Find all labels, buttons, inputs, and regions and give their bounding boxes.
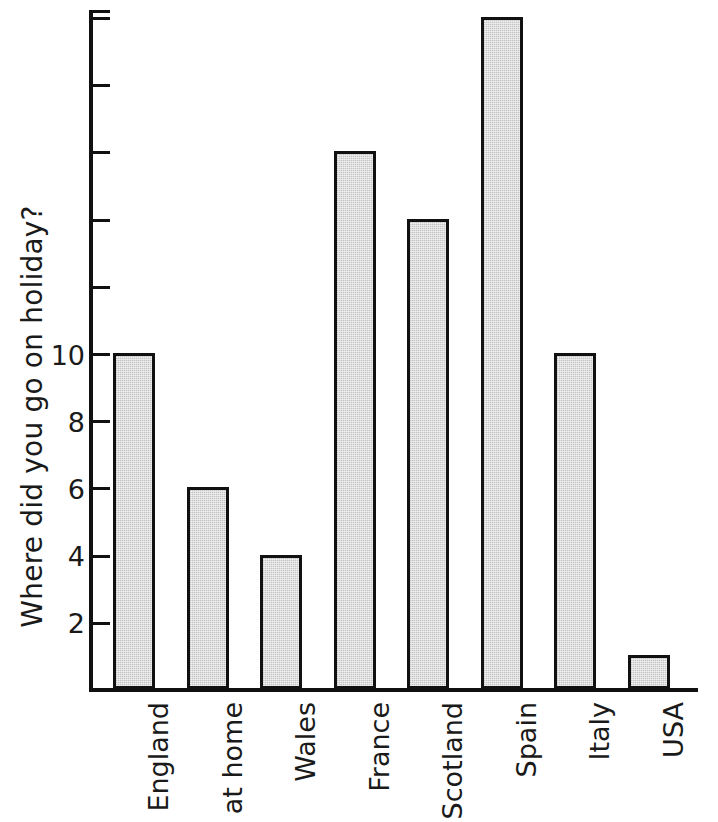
y-tick-label-8: 8 <box>68 408 85 435</box>
x-label-usa: USA <box>660 702 687 822</box>
x-label-wales: Wales <box>292 702 319 822</box>
x-label-at-home: at home <box>219 702 246 822</box>
y-tick-14 <box>93 219 110 222</box>
y-tick-12 <box>93 286 110 289</box>
bar-france <box>334 151 376 689</box>
y-axis-title: Where did you go on holiday? <box>16 167 49 667</box>
y-tick-16 <box>93 151 110 154</box>
bar-scotland <box>407 219 449 689</box>
x-label-england: England <box>145 702 172 822</box>
y-tick-20 <box>93 17 110 20</box>
y-axis-line <box>89 10 93 691</box>
x-label-spain: Spain <box>513 702 540 822</box>
y-tick-label-6: 6 <box>68 475 85 502</box>
x-axis-line <box>89 688 698 692</box>
bar-spain <box>481 17 523 689</box>
y-tick-4: 4 <box>93 555 110 558</box>
x-label-scotland: Scotland <box>439 702 466 822</box>
x-label-italy: Italy <box>586 702 613 822</box>
bar-at-home <box>187 487 229 689</box>
y-axis-top-cap-tick <box>93 10 110 13</box>
x-label-france: France <box>366 702 393 822</box>
bar-wales <box>260 555 302 689</box>
y-tick-8: 8 <box>93 420 110 423</box>
plot-area: 246810 Englandat homeWalesFranceScotland… <box>89 10 698 691</box>
y-tick-label-10: 10 <box>51 341 85 368</box>
y-tick-6: 6 <box>93 487 110 490</box>
bar-england <box>113 353 155 689</box>
bar-italy <box>554 353 596 689</box>
y-tick-2: 2 <box>93 622 110 625</box>
y-tick-label-2: 2 <box>68 610 85 637</box>
y-tick-18 <box>93 84 110 87</box>
bar-usa <box>628 655 670 689</box>
y-tick-label-4: 4 <box>68 543 85 570</box>
y-tick-10: 10 <box>93 353 110 356</box>
